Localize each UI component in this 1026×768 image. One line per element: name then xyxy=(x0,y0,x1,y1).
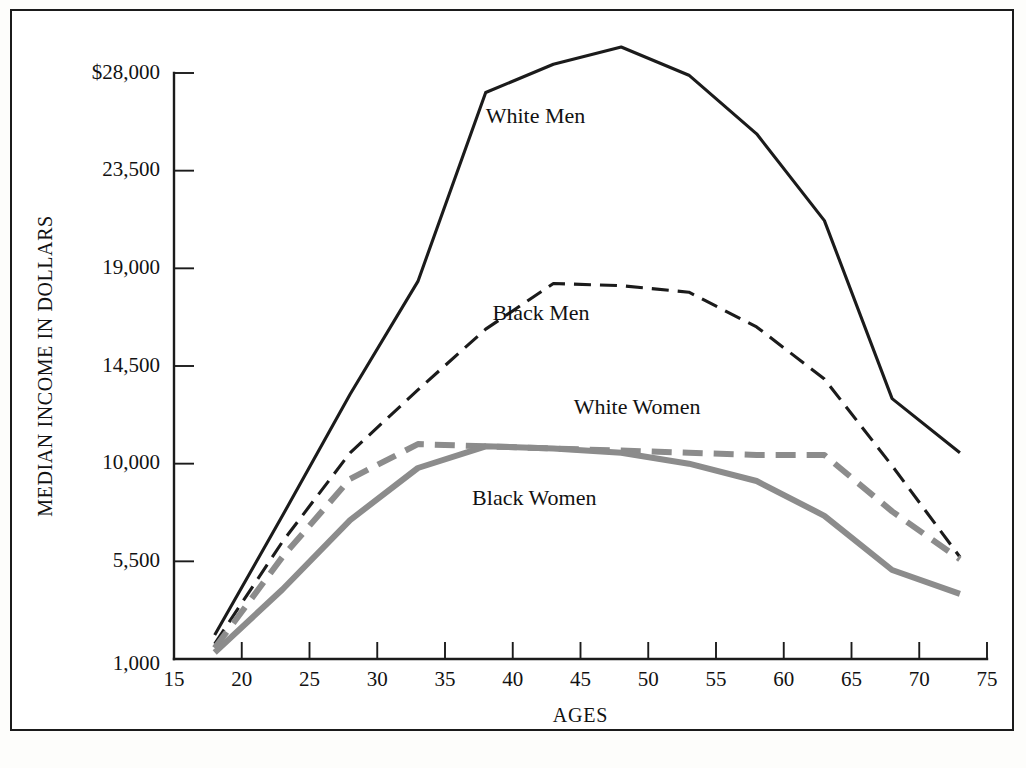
x-axis-title: AGES xyxy=(553,704,608,726)
series-line-black-men xyxy=(215,284,960,644)
x-tick-label: 50 xyxy=(638,667,659,691)
y-tick-label: 19,000 xyxy=(102,255,160,279)
y-axis: 1,0005,50010,00014,50019,00023,500$28,00… xyxy=(92,60,194,675)
y-tick-label: 23,500 xyxy=(102,157,160,181)
y-tick-label: 10,000 xyxy=(102,450,160,474)
x-tick-label: 25 xyxy=(299,667,320,691)
x-tick-label: 45 xyxy=(570,667,591,691)
series-label-white-men: White Men xyxy=(486,103,586,128)
y-tick-label: 1,000 xyxy=(113,651,160,675)
y-tick-label: $28,000 xyxy=(92,60,160,84)
x-tick-label: 55 xyxy=(706,667,727,691)
series-label-black-women: Black Women xyxy=(472,485,596,510)
y-tick-label: 14,500 xyxy=(102,353,160,377)
series-lines xyxy=(215,47,960,653)
y-tick-label: 5,500 xyxy=(113,548,160,572)
series-label-black-men: Black Men xyxy=(492,300,589,325)
x-tick-label: 65 xyxy=(841,667,862,691)
x-tick-label: 75 xyxy=(977,667,998,691)
income-by-age-line-chart: 1,0005,50010,00014,50019,00023,500$28,00… xyxy=(12,11,1012,729)
x-tick-label: 20 xyxy=(231,667,252,691)
x-tick-label: 60 xyxy=(773,667,794,691)
chart-page: 1,0005,50010,00014,50019,00023,500$28,00… xyxy=(0,0,1026,768)
y-axis-title: MEDIAN INCOME IN DOLLARS xyxy=(34,215,56,517)
x-tick-label: 15 xyxy=(164,667,185,691)
x-tick-label: 40 xyxy=(502,667,523,691)
series-label-white-women: White Women xyxy=(574,394,701,419)
x-tick-label: 70 xyxy=(909,667,930,691)
x-tick-label: 30 xyxy=(367,667,388,691)
x-axis: 15202530354045505560657075 xyxy=(164,642,998,691)
chart-frame-border: 1,0005,50010,00014,50019,00023,500$28,00… xyxy=(10,9,1014,731)
x-tick-label: 35 xyxy=(435,667,456,691)
